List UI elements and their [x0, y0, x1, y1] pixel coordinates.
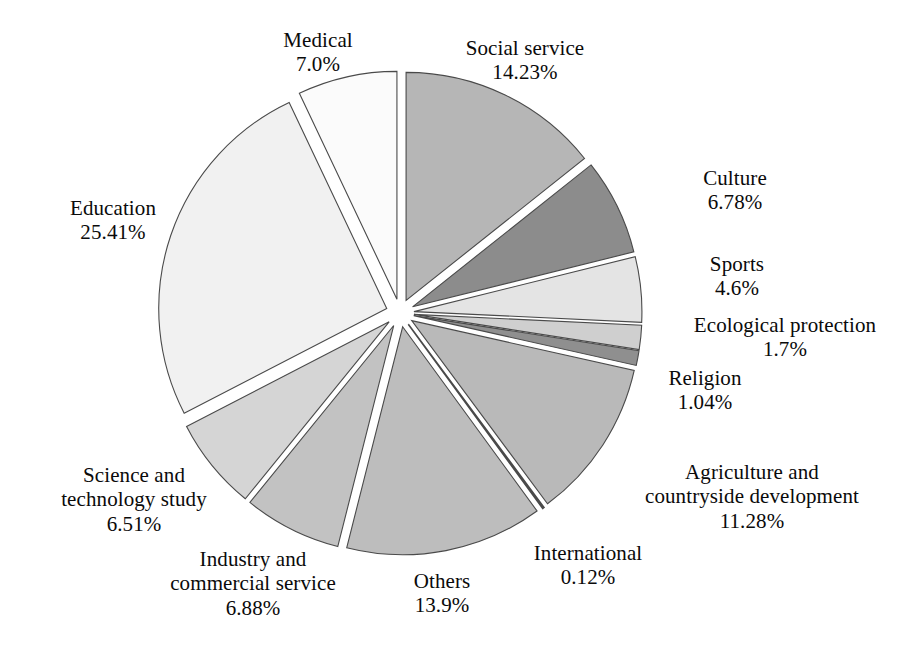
pie-label-agriculture-value: 11.28%: [592, 509, 912, 533]
pie-label-industry-name-line2: commercial service: [108, 571, 398, 595]
pie-label-sports-name: Sports: [662, 252, 812, 276]
pie-label-social-service-name: Social service: [420, 36, 630, 60]
pie-label-social-service: Social service 14.23%: [420, 36, 630, 85]
pie-label-international-value: 0.12%: [488, 565, 688, 589]
pie-label-international-name: International: [488, 541, 688, 565]
pie-label-social-service-value: 14.23%: [420, 60, 630, 84]
pie-label-education-value: 25.41%: [18, 220, 208, 244]
pie-label-industry-value: 6.88%: [108, 596, 398, 620]
pie-label-international: International 0.12%: [488, 541, 688, 590]
pie-label-religion-name: Religion: [620, 366, 790, 390]
pie-label-sports: Sports 4.6%: [662, 252, 812, 301]
pie-label-agriculture-name-line1: Agriculture and: [592, 460, 912, 484]
pie-label-medical-value: 7.0%: [243, 52, 393, 76]
pie-label-ecological-protection-name: Ecological protection: [660, 313, 910, 337]
pie-label-education-name: Education: [18, 196, 208, 220]
pie-label-industry-name-line1: Industry and: [108, 547, 398, 571]
pie-label-culture-name: Culture: [640, 166, 830, 190]
pie-label-culture-value: 6.78%: [640, 190, 830, 214]
pie-label-culture: Culture 6.78%: [640, 166, 830, 215]
pie-label-science-value: 6.51%: [14, 512, 254, 536]
pie-label-science-name-line2: technology study: [14, 487, 254, 511]
pie-label-medical: Medical 7.0%: [243, 28, 393, 77]
pie-label-religion-value: 1.04%: [620, 390, 790, 414]
pie-label-ecological-protection-value: 1.7%: [660, 337, 910, 361]
pie-label-sports-value: 4.6%: [662, 276, 812, 300]
pie-label-agriculture-name-line2: countryside development: [592, 484, 912, 508]
pie-label-science: Science and technology study 6.51%: [14, 463, 254, 536]
pie-label-industry: Industry and commercial service 6.88%: [108, 547, 398, 620]
pie-label-medical-name: Medical: [243, 28, 393, 52]
pie-chart-figure: Social service 14.23%Culture 6.78%Sports…: [0, 0, 916, 656]
pie-label-ecological-protection: Ecological protection 1.7%: [660, 313, 910, 362]
pie-label-education: Education 25.41%: [18, 196, 208, 245]
pie-label-religion: Religion 1.04%: [620, 366, 790, 415]
pie-label-science-name-line1: Science and: [14, 463, 254, 487]
pie-label-agriculture: Agriculture and countryside development …: [592, 460, 912, 533]
